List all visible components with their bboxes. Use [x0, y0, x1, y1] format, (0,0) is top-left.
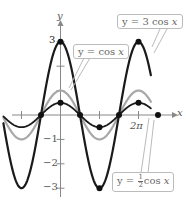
leader-half-b [148, 120, 154, 173]
callout-half-cos: cos [144, 175, 164, 186]
data-point [136, 39, 142, 45]
data-point [136, 100, 142, 106]
y-tick-label-minus1: −1 [43, 133, 58, 144]
one-half-fraction: 12 [138, 174, 142, 189]
legend-callout-half-cos: y = 12cos x [112, 172, 174, 192]
data-point [96, 185, 102, 191]
leader-cos-a [69, 58, 84, 88]
y-tick-label-minus3: −3 [43, 181, 58, 192]
x-tick-label-2pi: 2π [130, 120, 143, 131]
callout-half-var: x [164, 175, 170, 186]
callout-cos-text: y = cos [78, 46, 118, 57]
data-point [155, 112, 161, 118]
data-point [58, 39, 64, 45]
data-point [116, 112, 122, 118]
callout-cos-var: x [118, 46, 124, 57]
callout-3cos-var: x [172, 16, 178, 27]
callout-3cos-text: y = 3 cos [122, 16, 172, 27]
leader-cos-b [71, 58, 90, 90]
data-point [58, 100, 64, 106]
callout-half-prefix: y = [117, 175, 137, 186]
legend-callout-3cos: y = 3 cos x [117, 14, 183, 29]
legend-callout-cos: y = cos x [73, 44, 129, 59]
data-point [96, 124, 102, 130]
leader-3cos-b [154, 29, 167, 53]
x-axis-label: x [177, 107, 183, 118]
y-tick-label-minus2: −2 [43, 157, 58, 168]
data-point [77, 112, 83, 118]
y-tick-label-3: 3 [49, 34, 55, 45]
y-axis-label: y [57, 10, 63, 21]
data-point [38, 112, 44, 118]
